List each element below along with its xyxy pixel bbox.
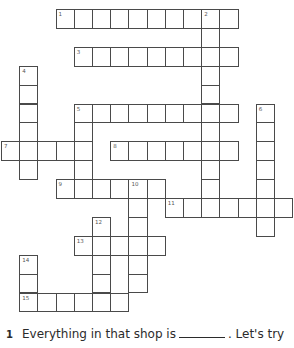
grid-cell[interactable] [201, 104, 220, 124]
grid-cell-11[interactable]: 11 [165, 198, 184, 218]
grid-cell[interactable] [128, 255, 147, 275]
grid-cell[interactable] [74, 179, 93, 199]
grid-cell[interactable] [219, 141, 238, 161]
grid-cell-13[interactable]: 13 [74, 236, 93, 256]
grid-cell[interactable] [92, 293, 111, 313]
grid-cell[interactable] [56, 141, 75, 161]
grid-cell[interactable] [183, 9, 202, 29]
grid-cell[interactable] [92, 179, 111, 199]
grid-cell[interactable] [128, 9, 147, 29]
cell-number: 3 [77, 49, 81, 55]
cell-number: 15 [22, 295, 29, 301]
cell-number: 11 [168, 200, 175, 206]
grid-cell-5[interactable]: 5 [74, 104, 93, 124]
grid-cell[interactable] [147, 179, 166, 199]
grid-cell-14[interactable]: 14 [19, 255, 38, 275]
grid-cell[interactable] [128, 141, 147, 161]
grid-cell[interactable] [74, 160, 93, 180]
grid-cell[interactable] [183, 198, 202, 218]
grid-cell[interactable] [201, 198, 220, 218]
grid-cell[interactable] [19, 160, 38, 180]
grid-cell[interactable] [147, 236, 166, 256]
grid-cell[interactable] [74, 122, 93, 142]
crossword-grid: 123456789101112131415 [0, 0, 294, 320]
grid-cell[interactable] [201, 141, 220, 161]
grid-cell[interactable] [92, 47, 111, 67]
clue-text-before: Everything in that shop is [22, 327, 176, 341]
grid-cell[interactable] [219, 198, 238, 218]
grid-cell[interactable] [256, 122, 275, 142]
grid-cell-12[interactable]: 12 [92, 217, 111, 237]
grid-cell[interactable] [201, 160, 220, 180]
grid-cell-1[interactable]: 1 [56, 9, 75, 29]
grid-cell[interactable] [256, 198, 275, 218]
grid-cell[interactable] [256, 160, 275, 180]
grid-cell[interactable] [128, 217, 147, 237]
grid-cell[interactable] [110, 293, 129, 313]
grid-cell[interactable] [256, 141, 275, 161]
grid-cell[interactable] [110, 9, 129, 29]
grid-cell[interactable] [128, 274, 147, 294]
grid-cell[interactable] [201, 122, 220, 142]
grid-cell[interactable] [201, 28, 220, 48]
grid-cell[interactable] [165, 47, 184, 67]
grid-cell[interactable] [56, 293, 75, 313]
grid-cell-8[interactable]: 8 [110, 141, 129, 161]
grid-cell[interactable] [92, 9, 111, 29]
grid-cell[interactable] [219, 9, 238, 29]
grid-cell[interactable] [92, 236, 111, 256]
grid-cell[interactable] [19, 85, 38, 105]
grid-cell[interactable] [183, 141, 202, 161]
grid-cell[interactable] [219, 104, 238, 124]
grid-cell[interactable] [201, 47, 220, 67]
grid-cell[interactable] [19, 274, 38, 294]
grid-cell-4[interactable]: 4 [19, 66, 38, 86]
grid-cell[interactable] [19, 104, 38, 124]
grid-cell[interactable] [37, 293, 56, 313]
grid-cell[interactable] [92, 104, 111, 124]
grid-cell-9[interactable]: 9 [56, 179, 75, 199]
grid-cell-2[interactable]: 2 [201, 9, 220, 29]
grid-cell[interactable] [37, 141, 56, 161]
grid-cell[interactable] [165, 9, 184, 29]
grid-cell[interactable] [256, 179, 275, 199]
grid-cell[interactable] [92, 255, 111, 275]
grid-cell[interactable] [19, 141, 38, 161]
grid-cell[interactable] [201, 66, 220, 86]
grid-cell[interactable] [19, 122, 38, 142]
grid-cell-3[interactable]: 3 [74, 47, 93, 67]
grid-cell[interactable] [219, 47, 238, 67]
grid-cell[interactable] [183, 104, 202, 124]
grid-cell[interactable] [274, 198, 293, 218]
grid-cell[interactable] [110, 236, 129, 256]
grid-cell[interactable] [128, 47, 147, 67]
grid-cell[interactable] [238, 198, 257, 218]
grid-cell[interactable] [74, 9, 93, 29]
grid-cell[interactable] [201, 179, 220, 199]
grid-cell[interactable] [110, 47, 129, 67]
grid-cell[interactable] [165, 141, 184, 161]
grid-cell-10[interactable]: 10 [128, 179, 147, 199]
grid-cell[interactable] [128, 236, 147, 256]
grid-cell[interactable] [74, 141, 93, 161]
grid-cell[interactable] [147, 104, 166, 124]
grid-cell[interactable] [147, 141, 166, 161]
clue-text-after: . Let's try [228, 327, 284, 341]
grid-cell-6[interactable]: 6 [256, 104, 275, 124]
grid-cell[interactable] [201, 85, 220, 105]
grid-cell[interactable] [74, 293, 93, 313]
grid-cell[interactable] [256, 217, 275, 237]
grid-cell-7[interactable]: 7 [1, 141, 20, 161]
grid-cell[interactable] [183, 47, 202, 67]
grid-cell[interactable] [165, 104, 184, 124]
grid-cell[interactable] [110, 104, 129, 124]
grid-cell-15[interactable]: 15 [19, 293, 38, 313]
grid-cell[interactable] [147, 9, 166, 29]
grid-cell[interactable] [128, 104, 147, 124]
cell-number: 8 [113, 143, 117, 149]
grid-cell[interactable] [92, 274, 111, 294]
grid-cell[interactable] [110, 179, 129, 199]
grid-cell[interactable] [147, 47, 166, 67]
cell-number: 6 [259, 106, 263, 112]
grid-cell[interactable] [128, 198, 147, 218]
